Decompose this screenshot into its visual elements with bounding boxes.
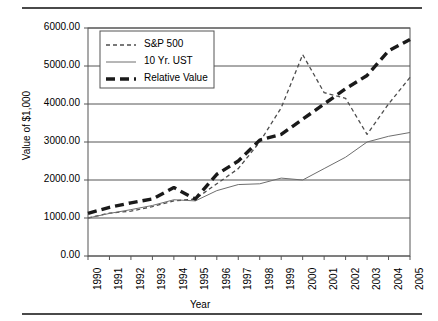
y-tick-label: 2000.00	[20, 173, 80, 184]
legend-label-2: 10 Yr. UST	[144, 55, 193, 66]
y-tick-label: 5000.00	[20, 59, 80, 70]
x-tick-label: 2002	[350, 268, 361, 290]
legend-label-3: Relative Value	[144, 72, 208, 83]
y-tick-label: 1000.00	[20, 211, 80, 222]
x-tick-label: 1998	[264, 268, 275, 290]
y-tick-label: 3000.00	[20, 135, 80, 146]
x-tick-label: 2003	[371, 268, 382, 290]
x-tick-label: 1997	[242, 268, 253, 290]
x-tick-label: 1993	[156, 268, 167, 290]
series-line-10-yr-ust	[88, 133, 410, 219]
x-tick-label: 1994	[178, 268, 189, 290]
x-tick-label: 2005	[414, 268, 425, 290]
x-tick-label: 1990	[92, 268, 103, 290]
y-tick-label: 4000.00	[20, 97, 80, 108]
x-tick-label: 2004	[393, 268, 404, 290]
x-tick-label: 2001	[328, 268, 339, 290]
x-tick-label: 1992	[135, 268, 146, 290]
x-tick-label: 1991	[113, 268, 124, 290]
x-tick-label: 1999	[285, 268, 296, 290]
x-tick-label: 1996	[221, 268, 232, 290]
y-tick-label: 6000.00	[20, 21, 80, 32]
x-tick-label: 2000	[307, 268, 318, 290]
legend-label-1: S&P 500	[144, 38, 183, 49]
x-tick-label: 1995	[199, 268, 210, 290]
figure-container: Value of $1,000 Year 0.001000.002000.003…	[0, 0, 438, 321]
y-tick-label: 0.00	[20, 249, 80, 260]
